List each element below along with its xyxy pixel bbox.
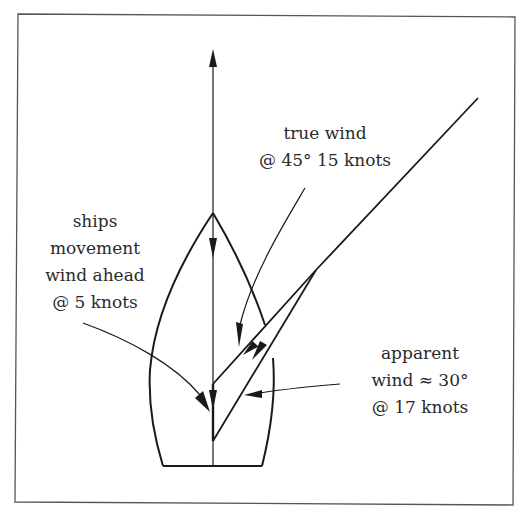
ships-movement-label-line2: movement bbox=[30, 235, 160, 262]
hull-right-upper bbox=[213, 213, 265, 325]
apparent-wind-label-line2: wind ≈ 30° bbox=[360, 367, 480, 394]
apparent-wind-label: apparent wind ≈ 30° @ 17 knots bbox=[360, 340, 480, 421]
true-wind-label-line1: true wind bbox=[255, 120, 395, 147]
ships-movement-arrow-lower-icon bbox=[209, 390, 217, 410]
ships-movement-label-line4: @ 5 knots bbox=[30, 289, 160, 316]
true-wind-label-line2: @ 45° 15 knots bbox=[255, 147, 395, 174]
apparent-wind-label-line3: @ 17 knots bbox=[360, 394, 480, 421]
apparent-wind-leader-arrow-icon bbox=[244, 390, 262, 398]
true-wind-vector bbox=[213, 270, 316, 384]
ships-movement-label-line3: wind ahead bbox=[30, 262, 160, 289]
apparent-wind-leader bbox=[255, 384, 340, 394]
ships-movement-label-line1: ships bbox=[30, 208, 160, 235]
hull-right-lower bbox=[262, 358, 274, 466]
ships-movement-leader-arrow-icon bbox=[195, 391, 210, 412]
heading-arrow-icon bbox=[209, 49, 217, 67]
true-wind-leader-arrow-icon bbox=[236, 322, 243, 347]
true-wind-label: true wind @ 45° 15 knots bbox=[255, 120, 395, 174]
ships-movement-arrow-upper-icon bbox=[209, 238, 217, 258]
ships-movement-label: ships movement wind ahead @ 5 knots bbox=[30, 208, 160, 316]
apparent-wind-label-line1: apparent bbox=[360, 340, 480, 367]
apparent-wind-vector bbox=[213, 270, 316, 441]
ships-movement-leader bbox=[83, 323, 200, 395]
